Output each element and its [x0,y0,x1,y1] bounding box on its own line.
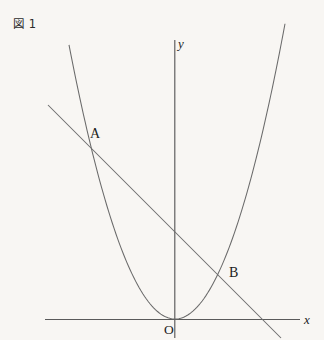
coordinate-plot: y x O A B [0,0,324,340]
y-axis-label: y [176,36,184,51]
figure-container: 図 1 y x O A B [0,0,324,340]
parabola-curve [69,24,285,319]
point-a-label: A [90,126,101,141]
point-b-label: B [229,265,238,280]
x-axis-label: x [303,312,310,327]
origin-label: O [164,322,174,337]
straight-line [48,105,281,338]
